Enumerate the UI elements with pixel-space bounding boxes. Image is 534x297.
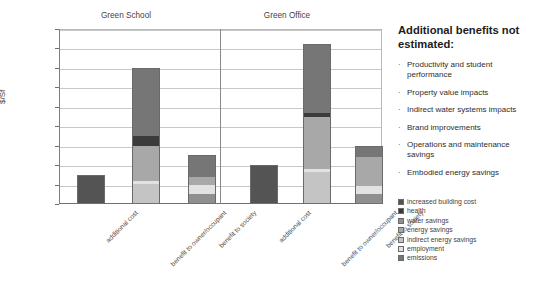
bar-segment-health[interactable]: [132, 136, 160, 146]
chart-screenshot: Green School Green Office $/Sf $0$2$4$6$…: [0, 0, 534, 297]
y-tick-mark: [55, 204, 59, 205]
bullet-dot-icon: ·: [398, 123, 407, 133]
bullet-dot-icon: ·: [398, 140, 407, 160]
y-tick-mark: [55, 68, 59, 69]
bullet-text: Productivity and student performance: [407, 60, 534, 80]
legend-item[interactable]: health: [398, 207, 534, 215]
legend-label: health: [407, 207, 426, 215]
bar-segment-emissions[interactable]: [355, 146, 383, 158]
bar-segment-energy-savings[interactable]: [188, 177, 216, 185]
bar-segment-employment[interactable]: [188, 185, 216, 195]
bar-segment-indirect-energy-savings[interactable]: [303, 172, 331, 204]
y-tick-mark: [55, 48, 59, 49]
bar-segment-energy-savings[interactable]: [303, 117, 331, 169]
bullet-dot-icon: ·: [398, 60, 407, 80]
x-axis-label: additional cost: [104, 209, 139, 244]
bullet-text: Embodied energy savings: [407, 168, 499, 178]
y-tick-mark: [55, 107, 59, 108]
bullet-item: ·Operations and maintenance savings: [398, 140, 534, 160]
y-tick-mark: [55, 29, 59, 30]
bar-green-office-additional-cost[interactable]: [250, 29, 278, 204]
legend-swatch-icon: [398, 208, 404, 214]
bar-green-school-benefit-to-owner-occupant[interactable]: [132, 29, 160, 204]
legend-swatch-icon: [398, 227, 404, 233]
bullet-dot-icon: ·: [398, 88, 407, 98]
bar-segment-indirect-energy-savings[interactable]: [132, 184, 160, 204]
bar-green-school-benefit-to-society[interactable]: [188, 29, 216, 204]
y-tick-mark: [55, 146, 59, 147]
legend-label: increased building cost: [407, 198, 476, 206]
group-title-green-office: Green Office: [237, 11, 337, 20]
y-axis-label: $/Sf: [0, 90, 7, 104]
y-tick-mark: [55, 87, 59, 88]
group-divider: [220, 29, 221, 204]
bullet-dot-icon: ·: [398, 168, 407, 178]
legend-label: water savings: [407, 217, 449, 225]
bar-segment-health[interactable]: [303, 113, 331, 118]
legend-label: emissions: [407, 254, 437, 262]
legend-swatch-icon: [398, 255, 404, 261]
bullet-dot-icon: ·: [398, 105, 407, 115]
bullet-item: ·Productivity and student performance: [398, 60, 534, 80]
legend-label: indirect energy savings: [407, 236, 477, 244]
y-tick-mark: [55, 126, 59, 127]
bar-segment-increased-building-cost[interactable]: [250, 165, 278, 204]
chart-panel: Green School Green Office $/Sf $0$2$4$6$…: [0, 0, 392, 297]
bullet-item: ·Embodied energy savings: [398, 168, 534, 178]
bar-segment-emissions[interactable]: [132, 68, 160, 136]
bar-segment-employment[interactable]: [355, 186, 383, 195]
legend-item[interactable]: energy savings: [398, 226, 534, 234]
bar-segment-emissions[interactable]: [188, 155, 216, 176]
legend-swatch-icon: [398, 237, 404, 243]
bar-green-school-additional-cost[interactable]: [77, 29, 105, 204]
bar-segment-increased-building-cost[interactable]: [77, 175, 105, 204]
bullet-item: ·Brand improvements: [398, 123, 534, 133]
x-axis-label: benefit to owner/occupant: [169, 209, 227, 267]
bullet-text: Operations and maintenance savings: [407, 140, 534, 160]
legend-swatch-icon: [398, 218, 404, 224]
x-axis-label: additional cost: [277, 209, 312, 244]
group-title-green-school: Green School: [76, 11, 176, 20]
legend-swatch-icon: [398, 199, 404, 205]
side-panel-bullets: ·Productivity and student performance·Pr…: [398, 60, 534, 178]
bar-segment-energy-savings[interactable]: [132, 146, 160, 181]
legend-item[interactable]: water savings: [398, 217, 534, 225]
bullet-text: Indirect water systems impacts: [407, 105, 516, 115]
bullet-item: ·Indirect water systems impacts: [398, 105, 534, 115]
legend-item[interactable]: employment: [398, 245, 534, 253]
legend: increased building costhealthwater savin…: [398, 198, 534, 264]
side-panel-heading: Additional benefits not estimated:: [398, 24, 534, 51]
bullet-item: ·Property value impacts: [398, 88, 534, 98]
legend-item[interactable]: increased building cost: [398, 198, 534, 206]
bar-segment-employment[interactable]: [303, 169, 331, 172]
bar-green-office-benefit-to-society[interactable]: [355, 29, 383, 204]
bar-segment-employment[interactable]: [132, 181, 160, 184]
legend-swatch-icon: [398, 246, 404, 252]
bar-segment-energy-savings[interactable]: [355, 157, 383, 185]
y-tick-mark: [55, 185, 59, 186]
bullet-text: Brand improvements: [407, 123, 481, 133]
legend-item[interactable]: indirect energy savings: [398, 236, 534, 244]
bar-green-office-benefit-to-owner-occupant[interactable]: [303, 29, 331, 204]
legend-item[interactable]: emissions: [398, 254, 534, 262]
legend-label: energy savings: [407, 226, 453, 234]
bullet-text: Property value impacts: [407, 88, 488, 98]
side-panel: Additional benefits not estimated: ·Prod…: [398, 24, 534, 185]
bar-segment-emissions[interactable]: [303, 44, 331, 113]
y-tick-mark: [55, 165, 59, 166]
legend-label: employment: [407, 245, 444, 253]
